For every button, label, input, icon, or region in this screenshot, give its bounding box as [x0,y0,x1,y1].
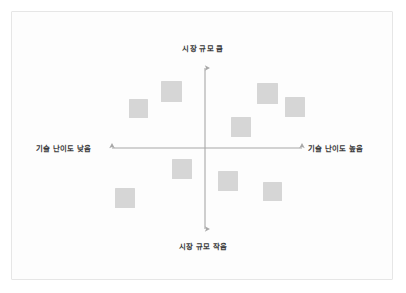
plotted-item-square[interactable] [161,81,182,102]
plotted-item-square[interactable] [285,97,305,117]
plotted-item-square[interactable] [263,182,282,201]
axis-label-tech-difficulty-high: 기술 난이도 높음 [308,145,364,152]
plotted-item-square[interactable] [257,83,278,104]
axis-label-market-size-small: 시장 규모 작음 [12,243,394,250]
quadrant-plot-area: 시장 규모 큼 시장 규모 작음 기술 난이도 낮음 기술 난이도 높음 [12,12,394,281]
plotted-item-square[interactable] [218,171,238,191]
axis-label-tech-difficulty-low: 기술 난이도 낮음 [36,145,92,152]
diagram-card: 시장 규모 큼 시장 규모 작음 기술 난이도 낮음 기술 난이도 높음 [11,11,393,280]
plotted-item-square[interactable] [172,159,192,179]
plotted-item-square[interactable] [231,117,251,137]
screenshot-canvas: 시장 규모 큼 시장 규모 작음 기술 난이도 낮음 기술 난이도 높음 [0,0,406,293]
plotted-item-square[interactable] [129,99,148,118]
axis-label-market-size-large: 시장 규모 큼 [12,45,394,52]
plotted-item-square[interactable] [115,188,135,208]
